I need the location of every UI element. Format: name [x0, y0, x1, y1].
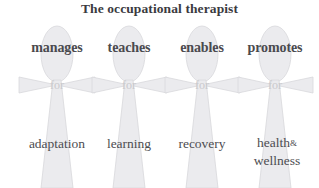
connector-label-4: for: [255, 78, 295, 93]
outcome-line-2: wellness: [254, 153, 301, 168]
connector-label-1: for: [37, 78, 77, 93]
connector-label-2: for: [109, 78, 149, 93]
connector-label-3: for: [182, 78, 222, 93]
outcome-label-3: recovery: [160, 135, 244, 152]
diagram-canvas: The occupational therapist: [0, 0, 319, 188]
verb-label-4: promotes: [225, 40, 319, 56]
outcome-label-4: health& wellness: [235, 134, 319, 170]
outcome-line-1: health: [257, 135, 290, 150]
outcome-label-2: learning: [89, 135, 169, 152]
ampersand-glyph: &: [290, 138, 297, 148]
